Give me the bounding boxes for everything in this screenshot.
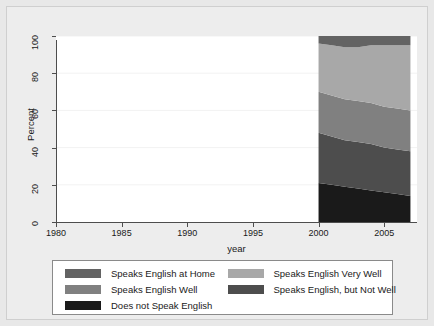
legend-swatch-speaks-english-very-well bbox=[227, 268, 265, 279]
x-tick-label: 2000 bbox=[299, 228, 339, 238]
legend-item-empty bbox=[223, 300, 393, 311]
y-axis-title: Percent bbox=[25, 95, 36, 155]
x-tick-mark bbox=[384, 223, 385, 227]
x-axis-line bbox=[56, 222, 417, 223]
legend-label: Speaks English Very Well bbox=[274, 268, 382, 279]
y-tick-mark bbox=[52, 36, 56, 37]
legend-swatch-speaks-english-at-home bbox=[64, 268, 102, 279]
legend-item-speaks-english-well[interactable]: Speaks English Well bbox=[53, 284, 223, 295]
y-tick-label: 0 bbox=[30, 221, 40, 261]
x-tick-mark bbox=[253, 223, 254, 227]
legend-item-does-not-speak-english[interactable]: Does not Speak English bbox=[53, 300, 223, 311]
plot-region bbox=[56, 36, 417, 222]
legend-item-speaks-english-very-well[interactable]: Speaks English Very Well bbox=[223, 268, 393, 279]
x-axis-title: year bbox=[56, 243, 417, 254]
legend-row: Speaks English Well Speaks English, but … bbox=[53, 281, 392, 297]
legend-label: Speaks English Well bbox=[111, 284, 197, 295]
legend-label: Speaks English, but Not Well bbox=[274, 284, 396, 295]
y-tick-mark bbox=[52, 110, 56, 111]
y-tick-label: 100 bbox=[30, 35, 40, 75]
legend-swatch-does-not-speak-english bbox=[64, 300, 102, 311]
x-tick-mark bbox=[319, 223, 320, 227]
x-tick-mark bbox=[187, 223, 188, 227]
stacked-area-chart bbox=[56, 36, 417, 222]
x-tick-label: 2005 bbox=[364, 228, 404, 238]
chart-legend: Speaks English at Home Speaks English Ve… bbox=[52, 260, 393, 315]
figure-container: 020406080100 198019851990199520002005 Pe… bbox=[6, 6, 428, 320]
legend-swatch-speaks-english-but-not-well bbox=[227, 284, 265, 295]
y-tick-mark bbox=[52, 73, 56, 74]
legend-item-speaks-english-but-not-well[interactable]: Speaks English, but Not Well bbox=[223, 284, 393, 295]
x-tick-mark bbox=[122, 223, 123, 227]
x-tick-label: 1995 bbox=[233, 228, 273, 238]
x-tick-label: 1985 bbox=[102, 228, 142, 238]
legend-label: Does not Speak English bbox=[111, 300, 212, 311]
legend-row: Does not Speak English bbox=[53, 297, 392, 313]
area-series-group bbox=[319, 36, 411, 222]
y-tick-label: 20 bbox=[30, 184, 40, 224]
legend-label: Speaks English at Home bbox=[111, 268, 215, 279]
x-tick-label: 1980 bbox=[36, 228, 76, 238]
legend-row: Speaks English at Home Speaks English Ve… bbox=[53, 265, 392, 281]
y-tick-mark bbox=[52, 185, 56, 186]
x-tick-mark bbox=[56, 223, 57, 227]
x-tick-label: 1990 bbox=[167, 228, 207, 238]
legend-item-speaks-english-at-home[interactable]: Speaks English at Home bbox=[53, 268, 223, 279]
legend-swatch-speaks-english-well bbox=[64, 284, 102, 295]
y-axis-line bbox=[56, 40, 57, 223]
y-tick-mark bbox=[52, 148, 56, 149]
